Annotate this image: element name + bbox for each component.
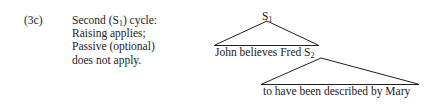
s1-triangle xyxy=(214,21,319,46)
node-label-s1: S1 xyxy=(262,10,272,22)
node-s1-subscript: 1 xyxy=(268,15,272,24)
node-s2-subscript: 2 xyxy=(311,51,315,60)
figure-container: (3c) Second (S1) cycle: Raising applies;… xyxy=(0,0,426,105)
terminal-row-upper: John believes Fred S2 xyxy=(215,46,314,59)
upper-terminal-text: John believes Fred xyxy=(215,46,304,58)
terminal-row-lower: to have been described by Mary xyxy=(263,85,410,98)
node-label-s2: S2 xyxy=(304,46,314,58)
s2-triangle xyxy=(261,58,419,85)
syntax-tree-diagram: S1 John believes Fred S2 to have been de… xyxy=(0,0,426,105)
